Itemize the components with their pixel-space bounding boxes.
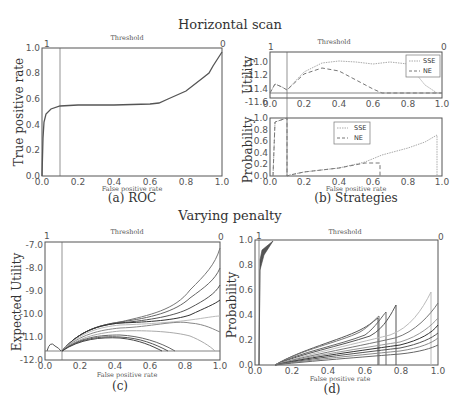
svg-text:-8.0: -8.0 xyxy=(25,263,43,273)
svg-text:1.0: 1.0 xyxy=(431,366,446,376)
x-axis-label: False positive rate xyxy=(97,371,158,379)
svg-text:0.6: 0.6 xyxy=(143,361,158,371)
caption-b: (b) Strategies xyxy=(314,191,398,205)
initial-wedge xyxy=(259,241,273,365)
svg-text:-9.0: -9.0 xyxy=(25,286,43,296)
caption-c: (c) xyxy=(112,379,128,393)
svg-text:0.4: 0.4 xyxy=(108,361,123,371)
svg-text:NE: NE xyxy=(423,67,432,75)
svg-text:0.4: 0.4 xyxy=(254,148,269,158)
svg-text:0.8: 0.8 xyxy=(179,177,194,187)
chart-expected-utility: Threshold 1 0 -7.0-8.0-9.0 -10.0-11.0-12… xyxy=(10,228,227,393)
svg-text:0.0: 0.0 xyxy=(26,171,41,181)
svg-text:SSE: SSE xyxy=(354,124,366,132)
svg-text:0.0: 0.0 xyxy=(38,361,53,371)
y-ticks: 1.00.80.6 0.40.20.0 xyxy=(239,235,254,370)
svg-text:1.0: 1.0 xyxy=(435,177,450,187)
svg-text:0.8: 0.8 xyxy=(178,361,193,371)
svg-text:0.2: 0.2 xyxy=(297,177,311,187)
top-tick-0: 0 xyxy=(438,232,444,242)
threshold-label: Threshold xyxy=(110,34,143,42)
threshold-label: Threshold xyxy=(317,38,350,46)
svg-text:1.0: 1.0 xyxy=(213,361,228,371)
chart-strategies: Threshold 1 0 SSE NE -11.0-11.2-11.4-11.… xyxy=(241,38,449,205)
section-title-varying-penalty: Varying penalty xyxy=(177,208,282,223)
svg-text:0.6: 0.6 xyxy=(366,99,381,109)
svg-text:0.8: 0.8 xyxy=(401,177,416,187)
legend-bottom: SSE NE xyxy=(334,122,370,144)
svg-text:1.0: 1.0 xyxy=(435,99,450,109)
svg-text:0.2: 0.2 xyxy=(73,361,87,371)
svg-text:0.2: 0.2 xyxy=(71,177,85,187)
svg-text:0.6: 0.6 xyxy=(239,285,254,295)
svg-text:NE: NE xyxy=(354,134,363,142)
plot-frame xyxy=(42,48,222,176)
svg-text:0.0: 0.0 xyxy=(248,366,263,376)
svg-text:0.6: 0.6 xyxy=(254,136,269,146)
top-tick-0: 0 xyxy=(218,232,224,242)
svg-text:-7.0: -7.0 xyxy=(25,240,43,250)
y-axis-label: True positive rate xyxy=(12,58,26,166)
svg-text:1.0: 1.0 xyxy=(215,177,230,187)
svg-text:0.8: 0.8 xyxy=(401,99,416,109)
roc-curve xyxy=(42,52,222,176)
y-axis-label: Expected Utility xyxy=(10,253,24,352)
caption-a: (a) ROC xyxy=(108,191,156,205)
svg-text:0.2: 0.2 xyxy=(297,99,311,109)
top-tick-1: 1 xyxy=(268,42,274,52)
figure: Horizontal scan Varying penalty Threshol… xyxy=(0,0,461,412)
svg-text:0.4: 0.4 xyxy=(239,310,254,320)
penalty-curves xyxy=(62,248,220,351)
svg-text:0.8: 0.8 xyxy=(239,260,254,270)
threshold-label: Threshold xyxy=(328,228,361,236)
top-tick-1: 1 xyxy=(44,231,50,241)
plot-frame xyxy=(255,240,438,365)
probability-y-ticks: 1.00.80.6 0.40.20.0 xyxy=(254,113,269,181)
chart-roc: Threshold 1 0 0.00.2 0.40.6 0.81.0 0.00.… xyxy=(12,34,229,205)
caption-d: (d) xyxy=(323,382,340,396)
svg-text:0.2: 0.2 xyxy=(285,366,299,376)
probability-curves xyxy=(275,292,438,365)
svg-text:0.2: 0.2 xyxy=(254,159,268,169)
y-axis-label: Probability xyxy=(225,271,239,338)
svg-text:0.4: 0.4 xyxy=(332,99,347,109)
threshold-label: Threshold xyxy=(110,228,143,236)
svg-text:0.0: 0.0 xyxy=(263,177,278,187)
utility-y-label: Utility xyxy=(241,56,255,94)
svg-text:0.8: 0.8 xyxy=(394,366,409,376)
svg-text:0.8: 0.8 xyxy=(254,125,269,135)
svg-text:0.2: 0.2 xyxy=(239,335,253,345)
top-tick-0: 0 xyxy=(441,42,447,52)
x-ticks: 0.00.2 0.40.6 0.81.0 xyxy=(38,361,228,371)
svg-text:1.0: 1.0 xyxy=(239,235,254,245)
svg-text:0.6: 0.6 xyxy=(26,94,41,104)
svg-text:0.0: 0.0 xyxy=(263,99,278,109)
svg-text:0.4: 0.4 xyxy=(26,120,41,130)
svg-text:0.8: 0.8 xyxy=(26,68,41,78)
section-title-horizontal-scan: Horizontal scan xyxy=(178,17,283,32)
svg-text:SSE: SSE xyxy=(423,57,435,65)
legend-top: SSE NE xyxy=(406,55,440,77)
svg-text:1.0: 1.0 xyxy=(26,43,41,53)
left-bump xyxy=(47,344,61,351)
y-ticks: 0.00.20.4 0.60.81.0 xyxy=(26,43,41,181)
probability-y-label: Probability xyxy=(241,116,255,183)
utility-x-ticks: 0.00.2 0.40.6 0.81.0 xyxy=(263,99,450,109)
svg-text:1.0: 1.0 xyxy=(254,113,269,123)
svg-text:0.2: 0.2 xyxy=(26,145,40,155)
chart-probability-varying: Threshold 1 0 1.00.80.6 0.40.20.0 0.00.2… xyxy=(225,228,445,396)
